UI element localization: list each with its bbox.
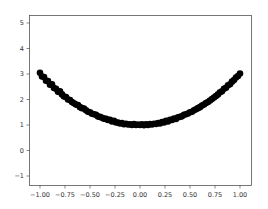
x-tick-label: −0.75 xyxy=(55,191,75,199)
figure-background xyxy=(0,0,268,209)
x-tick-label: −1.00 xyxy=(30,191,50,199)
x-tick-label: 0.50 xyxy=(183,191,197,199)
x-tick-label: 0.25 xyxy=(158,191,172,199)
y-tick-label: −1 xyxy=(14,172,24,180)
scatter-chart: −1.00−0.75−0.50−0.250.000.250.500.751.00… xyxy=(0,0,268,209)
y-tick-label: 2 xyxy=(20,96,24,104)
x-tick-label: 0.00 xyxy=(133,191,147,199)
y-tick-label: 5 xyxy=(20,19,24,27)
y-tick-label: 0 xyxy=(20,147,24,155)
data-point xyxy=(237,70,244,77)
y-tick-label: 4 xyxy=(20,45,24,53)
y-tick-label: 1 xyxy=(20,121,24,129)
x-tick-label: −0.25 xyxy=(105,191,125,199)
x-tick-label: −0.50 xyxy=(80,191,100,199)
y-tick-label: 3 xyxy=(20,70,24,78)
x-tick-label: 0.75 xyxy=(208,191,222,199)
x-tick-label: 1.00 xyxy=(233,191,247,199)
